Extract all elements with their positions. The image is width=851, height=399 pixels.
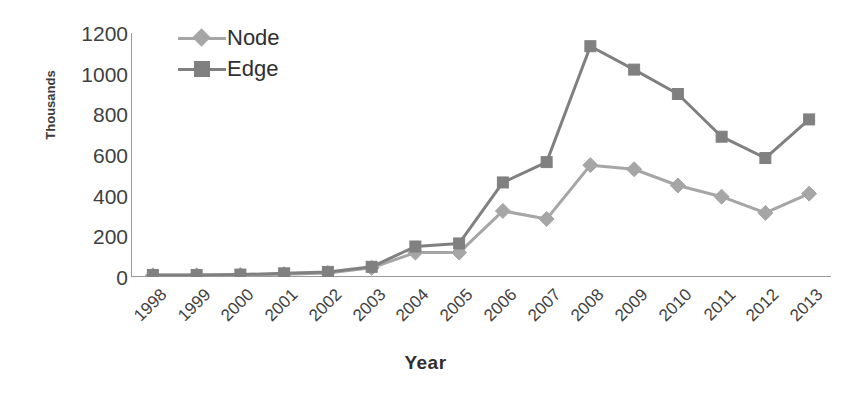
data-point-marker (804, 114, 815, 125)
legend-label: Node (227, 27, 280, 49)
legend-marker-square-icon (178, 60, 226, 78)
data-point-marker (627, 162, 642, 177)
legend-diamond-icon (192, 28, 210, 46)
legend-square-icon (194, 61, 210, 77)
data-point-marker (760, 153, 771, 164)
data-point-marker (322, 266, 333, 277)
x-axis-tick-label: 2009 (606, 285, 653, 332)
y-axis-tick-label: 400 (56, 185, 128, 206)
y-axis-tick-label: 200 (56, 226, 128, 247)
data-point-marker (366, 261, 377, 272)
x-axis-tick-label: 1999 (168, 285, 215, 332)
data-point-marker (714, 189, 729, 204)
x-axis-tick-label: 2004 (387, 285, 434, 332)
x-axis-tick-label: 2012 (737, 285, 784, 332)
x-axis-tick-label: 2000 (212, 285, 259, 332)
legend-label: Edge (227, 58, 278, 80)
data-point-marker (758, 205, 773, 220)
data-point-marker (716, 131, 727, 142)
x-axis-tick-label: 2008 (562, 285, 609, 332)
chart-legend: NodeEdge (178, 22, 328, 84)
data-point-marker (629, 64, 640, 75)
series-node (145, 158, 816, 277)
x-axis-tick-label: 2013 (781, 285, 828, 332)
data-point-marker (802, 186, 817, 201)
data-point-marker (670, 178, 685, 193)
data-point-marker (235, 269, 246, 277)
legend-marker-diamond-icon (178, 29, 226, 47)
x-axis-tick-label: 2011 (693, 285, 740, 332)
data-point-marker (541, 157, 552, 168)
legend-item-node[interactable]: Node (178, 22, 328, 53)
data-point-marker (191, 269, 202, 277)
data-point-marker (672, 89, 683, 100)
x-axis-tick-label: 2001 (256, 285, 303, 332)
data-point-marker (454, 238, 465, 249)
x-axis-title: Year (0, 352, 851, 374)
x-axis-tick-label: 2003 (343, 285, 390, 332)
x-axis-tick-label: 2007 (518, 285, 565, 332)
line-chart: Thousands 020040060080010001200 19981999… (0, 0, 851, 399)
x-axis-tick-label: 2002 (299, 285, 346, 332)
data-point-marker (497, 177, 508, 188)
data-point-marker (279, 268, 290, 277)
series-line (153, 165, 809, 275)
y-axis-tick-label: 1000 (56, 63, 128, 84)
x-axis-tick-label: 2006 (474, 285, 521, 332)
y-axis-tick-label: 600 (56, 145, 128, 166)
x-axis-tick-labels: 1998199920002001200220032004200520062007… (131, 277, 831, 347)
data-point-marker (585, 41, 596, 52)
y-axis-tick-labels: 020040060080010001200 (52, 0, 128, 399)
data-point-marker (147, 269, 158, 277)
x-axis-tick-label: 2005 (431, 285, 478, 332)
data-point-marker (410, 241, 421, 252)
x-axis-tick-label: 1998 (124, 285, 171, 332)
y-axis-tick-label: 1200 (56, 23, 128, 44)
legend-item-edge[interactable]: Edge (178, 53, 328, 84)
y-axis-tick-label: 800 (56, 104, 128, 125)
x-axis-tick-label: 2010 (649, 285, 696, 332)
y-axis-tick-label: 0 (56, 267, 128, 288)
